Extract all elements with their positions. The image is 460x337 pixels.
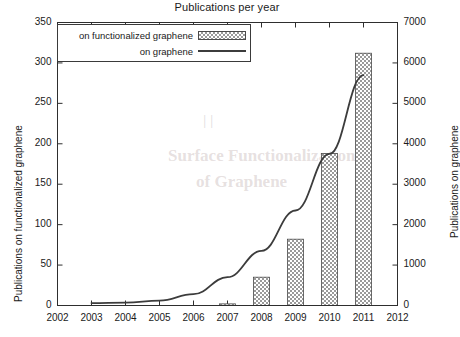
bar: [322, 153, 338, 305]
legend-swatch-solid-line-icon: [198, 50, 246, 52]
chart-legend: on functionalized graphene on graphene: [57, 24, 251, 62]
bar: [254, 277, 270, 305]
axis-ticks: [58, 23, 398, 306]
y-axis-left-tick: 250: [12, 96, 52, 107]
bar: [288, 239, 304, 305]
y-axis-left-tick: 0: [12, 299, 52, 310]
legend-label-graphene: on graphene: [140, 46, 193, 57]
y-axis-right-tick: 4000: [404, 137, 448, 148]
bar: [356, 53, 372, 305]
y-axis-left-tick: 100: [12, 218, 52, 229]
y-axis-right-tick: 5000: [404, 96, 448, 107]
y-axis-left-tick: 200: [12, 137, 52, 148]
legend-item-functionalized-graphene: on functionalized graphene: [58, 28, 252, 42]
y-axis-left-tick: 150: [12, 177, 52, 188]
y-axis-right-tick: 7000: [404, 16, 448, 27]
y-axis-left-tick: 300: [12, 56, 52, 67]
y-axis-left-tick: 350: [12, 16, 52, 27]
y-axis-left-tick: 50: [12, 258, 52, 269]
y-axis-right-tick: 3000: [404, 177, 448, 188]
y-axis-right-tick: 2000: [404, 218, 448, 229]
y-axis-right-tick: 1000: [404, 258, 448, 269]
y-axis-right-tick: 6000: [404, 56, 448, 67]
y-axis-right-tick: 0: [404, 299, 448, 310]
x-axis-tick: 2012: [378, 312, 418, 323]
legend-label-functionalized-graphene: on functionalized graphene: [79, 30, 193, 41]
legend-swatch-hatched-bar-icon: [198, 31, 246, 40]
plot-frame: [58, 23, 398, 306]
legend-item-graphene: on graphene: [58, 44, 252, 58]
